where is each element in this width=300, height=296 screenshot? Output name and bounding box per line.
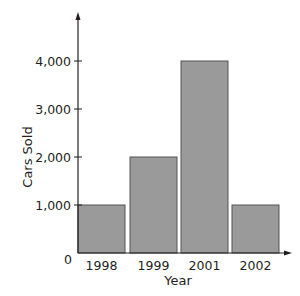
x-ticks-group: 1998199920012002 <box>86 258 272 273</box>
y-axis-arrow-icon <box>76 12 81 20</box>
y-ticks-group: 01,0002,0003,0004,000 <box>35 54 82 268</box>
x-tick-label: 2002 <box>240 258 272 273</box>
x-axis-label: Year <box>163 273 192 288</box>
y-axis-label: Cars Sold <box>20 126 35 187</box>
y-tick-label: 0 <box>64 252 72 267</box>
bar-1999 <box>130 157 177 253</box>
bars-group <box>78 61 279 253</box>
y-tick-label: 4,000 <box>35 54 71 69</box>
bar-2002 <box>232 205 279 253</box>
y-tick-label: 3,000 <box>35 102 71 117</box>
y-tick-label: 2,000 <box>35 150 71 165</box>
bar-chart: 01,0002,0003,0004,000 1998199920012002 C… <box>0 0 300 296</box>
chart-canvas: 01,0002,0003,0004,000 1998199920012002 C… <box>0 0 300 296</box>
y-tick-label: 1,000 <box>35 198 71 213</box>
bar-2001 <box>181 61 228 253</box>
x-axis-arrow-icon <box>284 251 292 256</box>
bar-1998 <box>78 205 125 253</box>
x-tick-label: 2001 <box>189 258 221 273</box>
x-tick-label: 1999 <box>138 258 170 273</box>
x-tick-label: 1998 <box>86 258 118 273</box>
